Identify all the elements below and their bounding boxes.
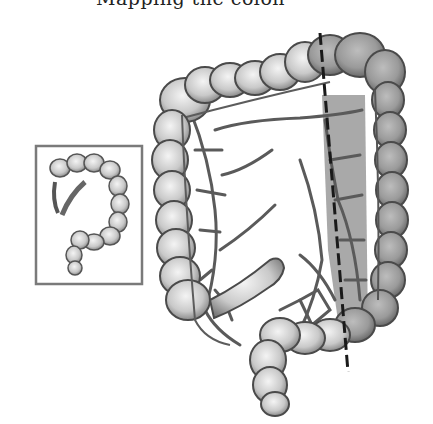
terminal-ileum [210, 259, 284, 318]
transverse-colon [160, 33, 405, 122]
sigmoid-colon [250, 308, 375, 416]
inset-overview [36, 146, 142, 284]
colon-illustration [0, 0, 433, 424]
descending-colon [362, 82, 408, 326]
